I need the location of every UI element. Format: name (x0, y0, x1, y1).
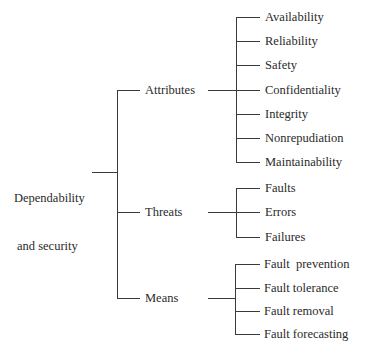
leaf-errors: Errors (265, 205, 296, 219)
branch-means: Means (145, 291, 178, 305)
leaf-integrity: Integrity (265, 107, 308, 121)
leaf-maintainability: Maintainability (265, 155, 342, 169)
leaf-failures: Failures (265, 230, 305, 244)
leaf-confidentiality: Confidentiality (265, 83, 341, 97)
leaf-reliability: Reliability (265, 34, 318, 48)
root-label-line2: and security (14, 238, 85, 254)
leaf-nonrepudiation: Nonrepudiation (265, 131, 343, 145)
leaf-availability: Availability (265, 10, 324, 24)
leaf-faults: Faults (265, 181, 296, 195)
branch-threats: Threats (145, 205, 182, 219)
branch-attributes: Attributes (145, 83, 195, 97)
leaf-fault-prevention: Fault prevention (264, 257, 349, 271)
leaf-safety: Safety (265, 58, 297, 72)
root-label-line1: Dependability (14, 190, 85, 206)
leaf-fault-tolerance: Fault tolerance (264, 281, 339, 295)
leaf-fault-forecasting: Fault forecasting (264, 327, 348, 341)
root-node: Dependability and security (14, 158, 85, 270)
leaf-fault-removal: Fault removal (264, 304, 334, 318)
